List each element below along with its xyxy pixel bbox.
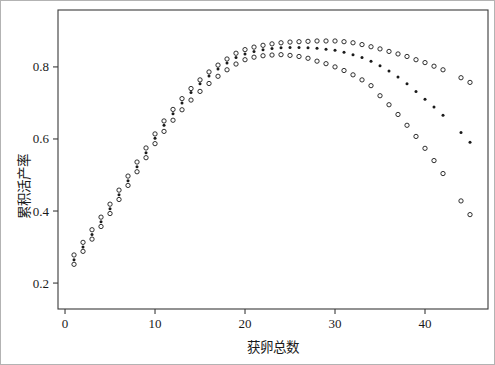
upper-ci-point (225, 57, 229, 61)
lower-ci-point (342, 68, 346, 72)
estimate-point (316, 47, 319, 50)
upper-ci-point (360, 42, 364, 46)
upper-ci-point (135, 160, 139, 164)
upper-ci-point (369, 45, 373, 49)
estimate-point (199, 82, 202, 85)
x-tick-label: 10 (149, 316, 162, 331)
upper-ci-point (189, 86, 193, 90)
upper-ci-point (207, 70, 211, 74)
estimate-point (127, 179, 130, 182)
lower-ci-point (180, 108, 184, 112)
lower-ci-point (396, 112, 400, 116)
estimate-point (388, 69, 391, 72)
estimate-point (325, 48, 328, 51)
estimate-point (190, 91, 193, 94)
lower-ci-point (459, 199, 463, 203)
upper-ci-point (126, 174, 130, 178)
estimate-point (208, 74, 211, 77)
upper-ci-point (252, 45, 256, 49)
lower-ci-point (243, 58, 247, 62)
upper-ci-point (315, 39, 319, 43)
estimate-point (163, 124, 166, 127)
lower-ci-point (369, 84, 373, 88)
lower-ci-point (234, 62, 238, 66)
lower-ci-point (171, 118, 175, 122)
upper-ci-point (432, 64, 436, 68)
lower-ci-point (189, 98, 193, 102)
lower-ci-point (207, 81, 211, 85)
lower-ci-point (252, 55, 256, 59)
upper-ci-point (279, 41, 283, 45)
upper-ci-point (324, 39, 328, 43)
estimate-point (343, 51, 346, 54)
estimate-point (307, 46, 310, 49)
upper-ci-point (288, 40, 292, 44)
lower-ci-point (315, 59, 319, 63)
lower-ci-point (99, 224, 103, 228)
lower-ci-point (225, 68, 229, 72)
lower-ci-point (81, 249, 85, 253)
x-tick-label: 40 (419, 316, 432, 331)
data-points (72, 39, 472, 267)
upper-ci-point (351, 41, 355, 45)
lower-ci-point (108, 211, 112, 215)
scatter-plot-figure: 010203040 0.20.40.60.8 获卵总数 累积活产率 (0, 0, 495, 365)
estimate-point (469, 141, 472, 144)
upper-ci-point (270, 42, 274, 46)
estimate-point (280, 46, 283, 49)
estimate-point (433, 105, 436, 108)
lower-ci-point (306, 56, 310, 60)
upper-ci-point (405, 54, 409, 58)
estimate-point (379, 64, 382, 67)
estimate-point (370, 60, 373, 63)
lower-ci-point (117, 197, 121, 201)
estimate-point (181, 101, 184, 104)
y-axis-title: 累积活产率 (16, 154, 32, 219)
upper-ci-point (459, 76, 463, 80)
lower-ci-point (297, 54, 301, 58)
estimate-point (262, 48, 265, 51)
upper-ci-point (162, 119, 166, 123)
y-tick-label: 0.6 (33, 131, 50, 146)
lower-ci-point (468, 212, 472, 216)
y-axis-ticks: 0.20.40.60.8 (33, 59, 58, 290)
lower-ci-point (423, 146, 427, 150)
estimate-point (82, 246, 85, 249)
upper-ci-point (342, 40, 346, 44)
lower-ci-point (441, 171, 445, 175)
upper-ci-point (99, 215, 103, 219)
upper-ci-point (306, 39, 310, 43)
estimate-point (361, 56, 364, 59)
x-tick-label: 30 (329, 316, 342, 331)
estimate-point (136, 165, 139, 168)
estimate-point (244, 52, 247, 55)
x-axis-title: 获卵总数 (247, 340, 300, 355)
estimate-point (253, 50, 256, 53)
upper-ci-point (171, 107, 175, 111)
estimate-point (91, 233, 94, 236)
estimate-point (235, 56, 238, 59)
estimate-point (334, 49, 337, 52)
upper-ci-point (441, 68, 445, 72)
estimate-point (172, 112, 175, 115)
estimate-point (73, 258, 76, 261)
upper-ci-point (234, 51, 238, 55)
estimate-point (100, 220, 103, 223)
upper-ci-point (90, 228, 94, 232)
estimate-point (154, 137, 157, 140)
lower-ci-point (351, 73, 355, 77)
lower-ci-point (288, 53, 292, 57)
lower-ci-point (432, 158, 436, 162)
upper-ci-point (414, 58, 418, 62)
upper-ci-point (387, 49, 391, 53)
y-tick-label: 0.8 (33, 59, 49, 74)
upper-ci-point (108, 202, 112, 206)
upper-ci-point (117, 188, 121, 192)
estimate-point (415, 90, 418, 93)
y-tick-label: 0.4 (33, 204, 50, 219)
lower-ci-point (333, 65, 337, 69)
lower-ci-point (387, 103, 391, 107)
lower-ci-point (270, 53, 274, 57)
upper-ci-point (333, 39, 337, 43)
estimate-point (289, 46, 292, 49)
